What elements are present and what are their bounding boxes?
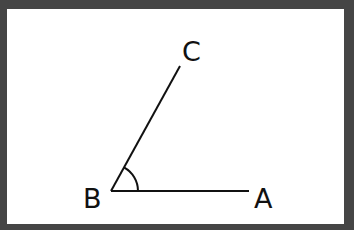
point-label-a: A [254, 185, 272, 212]
angle-arc [124, 167, 138, 191]
ray-bc [111, 66, 180, 191]
point-label-b: B [83, 185, 102, 212]
point-label-c: C [182, 38, 201, 65]
angle-diagram [0, 0, 354, 230]
